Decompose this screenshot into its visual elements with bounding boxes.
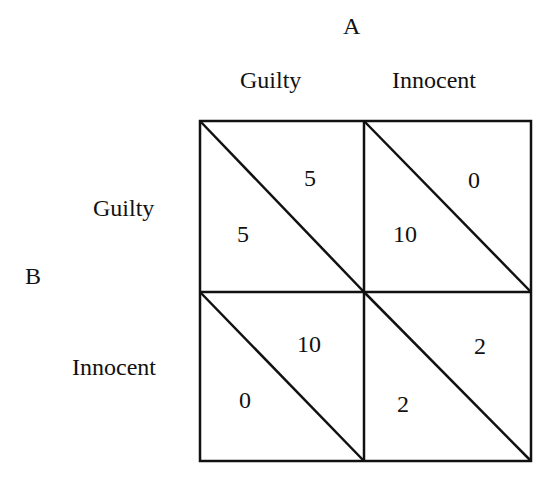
payoff-gi-b: 10 <box>393 221 417 247</box>
payoff-ii-b: 2 <box>397 391 409 417</box>
payoff-gg-a: 5 <box>304 165 316 191</box>
diagonal-gg <box>200 121 364 292</box>
payoff-ig-a: 10 <box>297 331 321 357</box>
diagonal-ig <box>200 292 364 461</box>
diagonal-ii <box>364 292 531 461</box>
payoff-ig-b: 0 <box>239 387 251 413</box>
payoff-matrix: 5 5 0 10 10 0 2 2 <box>0 0 557 485</box>
payoff-gg-b: 5 <box>237 221 249 247</box>
payoff-gi-a: 0 <box>468 167 480 193</box>
payoff-ii-a: 2 <box>474 333 486 359</box>
diagonal-gi <box>364 121 531 292</box>
